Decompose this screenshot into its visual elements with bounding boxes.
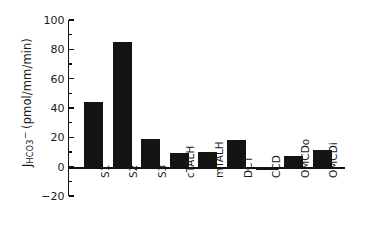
bar-chart-figure: JHCO3−(pmol/mm/min) −20020406080100 S1S2…: [0, 0, 372, 252]
y-tick-major: 80: [69, 49, 74, 50]
y-tick-major: 0: [69, 166, 74, 167]
y-tick-major: 100: [69, 19, 74, 20]
y-tick-label: 80: [30, 43, 64, 56]
bar: [113, 42, 132, 167]
y-tick-label: 20: [30, 131, 64, 144]
x-tick-label: DCT: [242, 164, 254, 178]
y-tick-minor: [69, 93, 72, 94]
x-tick-label: CCD: [270, 164, 282, 178]
bar: [141, 139, 160, 167]
y-tick-minor: [69, 63, 72, 64]
x-tick-label: OMCDi: [327, 164, 339, 178]
plot-area: −20020406080100 S1S2S3cTALHmTALHDCTCCDOM…: [68, 20, 345, 196]
y-tick-label: 60: [30, 72, 64, 85]
x-tick-label: cTALH: [184, 164, 196, 178]
y-tick-major: 20: [69, 137, 74, 138]
y-tick-major: 60: [69, 78, 74, 79]
y-tick-label: 40: [30, 101, 64, 114]
x-tick-label: S2: [127, 164, 139, 178]
x-tick-label: OMCDo: [299, 164, 311, 178]
x-tick-label: S1: [99, 164, 111, 178]
y-tick-minor: [69, 181, 72, 182]
y-tick-label: 100: [30, 14, 64, 27]
x-tick-label: S3: [156, 164, 168, 178]
y-axis-title-superscript: −: [20, 131, 30, 140]
y-tick-major: 40: [69, 107, 74, 108]
y-tick-minor: [69, 151, 72, 152]
y-tick-minor: [69, 34, 72, 35]
y-tick-minor: [69, 122, 72, 123]
y-tick-label: 0: [30, 160, 64, 173]
y-tick-label: −20: [30, 189, 64, 202]
bar: [84, 102, 103, 167]
x-tick-label: mTALH: [213, 164, 225, 178]
y-tick-major: −20: [69, 195, 74, 196]
